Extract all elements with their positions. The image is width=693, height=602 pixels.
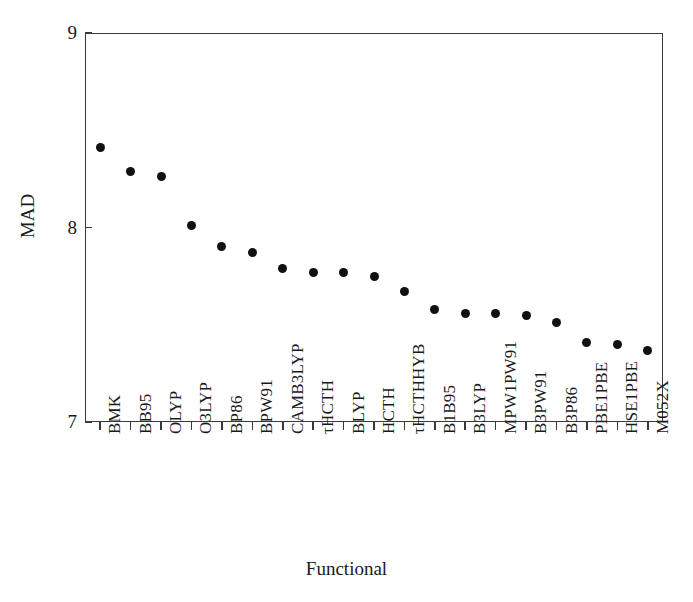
x-tick-label: CAMB3LYP <box>289 343 306 434</box>
x-tick-mark <box>191 422 193 430</box>
y-tick-mark <box>85 421 92 423</box>
x-tick-label: B3P86 <box>563 387 580 434</box>
x-tick-mark <box>130 422 132 430</box>
x-tick-label: BPW91 <box>258 379 275 434</box>
x-tick-mark <box>160 422 162 430</box>
x-tick-mark <box>495 422 497 430</box>
x-tick-label: BB95 <box>137 394 154 434</box>
x-tick-label: BMK <box>106 395 123 434</box>
x-axis-title: Functional <box>0 558 693 580</box>
x-tick-label: O3LYP <box>197 382 214 434</box>
x-tick-mark <box>617 422 619 430</box>
x-tick-mark <box>282 422 284 430</box>
x-tick-mark <box>252 422 254 430</box>
x-tick-label: B3LYP <box>471 383 488 434</box>
y-tick-label: 8 <box>37 218 77 237</box>
x-tick-mark <box>464 422 466 430</box>
x-tick-mark <box>312 422 314 430</box>
x-tick-mark <box>343 422 345 430</box>
y-tick-mark <box>85 227 92 229</box>
x-tick-label: HSE1PBE <box>623 361 640 434</box>
y-axis: 789BMKBB95OLYPO3LYPBP86BPW91CAMB3LYPτHCT… <box>0 0 693 602</box>
y-tick-label: 9 <box>37 23 77 42</box>
x-tick-label: M052X <box>654 380 671 434</box>
x-tick-label: MPW1PW91 <box>502 341 519 434</box>
x-tick-mark <box>373 422 375 430</box>
x-tick-label: OLYP <box>167 391 184 435</box>
x-tick-mark <box>434 422 436 430</box>
x-tick-label: B3PW91 <box>532 370 549 434</box>
x-tick-mark <box>647 422 649 430</box>
y-axis-title: MAD <box>17 161 39 271</box>
x-tick-mark <box>99 422 101 430</box>
x-tick-label: PBE1PBE <box>593 362 610 434</box>
x-tick-mark <box>221 422 223 430</box>
x-tick-label: BP86 <box>228 395 245 434</box>
x-tick-label: τHCTH <box>319 380 336 434</box>
x-tick-mark <box>404 422 406 430</box>
scatter-chart-figure: 789BMKBB95OLYPO3LYPBP86BPW91CAMB3LYPτHCT… <box>0 0 693 602</box>
x-tick-mark <box>556 422 558 430</box>
x-tick-label: BLYP <box>350 391 367 434</box>
y-tick-label: 7 <box>37 412 77 431</box>
x-tick-label: B1B95 <box>441 385 458 434</box>
x-tick-mark <box>586 422 588 430</box>
x-tick-mark <box>525 422 527 430</box>
x-tick-label: τHCTHHYB <box>410 343 427 434</box>
x-tick-label: HCTH <box>380 387 397 434</box>
y-tick-mark <box>85 32 92 34</box>
